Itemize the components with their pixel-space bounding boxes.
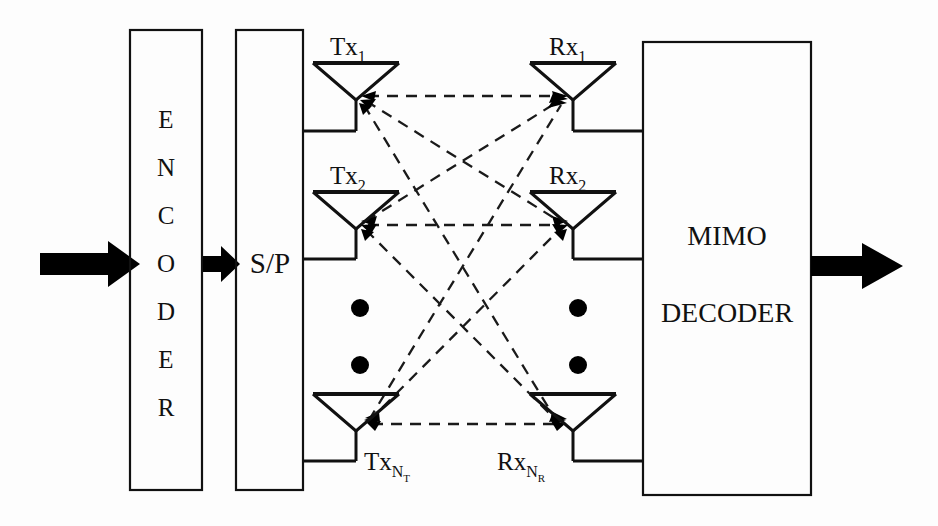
sp-label: S/P [250, 247, 290, 279]
tx1-sub: 1 [358, 48, 366, 65]
channel-link-tx1-rxnr [364, 105, 556, 420]
rx-antenna-1-label: Rx1 [549, 33, 586, 65]
tx-antenna-1 [313, 63, 399, 131]
svg-text:RxNR: RxNR [497, 448, 546, 484]
encoder-letter-5: E [158, 346, 173, 373]
encoder-block: E N C O D E R [130, 30, 202, 490]
rx-dot-2 [569, 356, 587, 374]
encoder-letter-1: N [157, 154, 175, 181]
svg-text:Tx2: Tx2 [330, 162, 366, 194]
svg-text:Rx2: Rx2 [549, 162, 586, 194]
rx-antenna-nr [530, 394, 616, 461]
rx-antenna-nr-label: RxNR [497, 448, 546, 484]
decoder-line-1: MIMO [687, 220, 766, 251]
encoder-letter-0: E [158, 106, 173, 133]
txnt-subsub: T [403, 472, 410, 484]
tx-ellipsis-dots [351, 299, 369, 374]
tx-dot-2 [351, 356, 369, 374]
tx-dot-1 [351, 299, 369, 317]
rxnr-sub: N [526, 463, 538, 480]
txnt-base: Tx [364, 448, 392, 475]
rxnr-subsub: R [538, 472, 546, 484]
input-signal-arrow [40, 241, 140, 287]
rx-ellipsis-dots [569, 299, 587, 374]
rxnr-base: Rx [497, 448, 527, 475]
tx2-sub: 2 [358, 177, 366, 194]
channel-arrowheads-tx [359, 91, 381, 431]
tx-antenna-2-label: Tx2 [330, 162, 366, 194]
mimo-decoder-block: MIMO DECODER [643, 42, 811, 495]
diagram-canvas: E N C O D E R S/P [0, 0, 938, 526]
txnt-sub: N [392, 463, 404, 480]
rx1-base: Rx [549, 33, 579, 60]
rx-antenna-2-label: Rx2 [549, 162, 586, 194]
decoder-line-2: DECODER [661, 297, 794, 328]
mimo-block-diagram: E N C O D E R S/P [0, 0, 938, 526]
encoder-letter-2: C [158, 202, 175, 229]
encoder-letter-6: R [158, 394, 175, 421]
encoder-letter-3: O [157, 250, 175, 277]
rx2-base: Rx [549, 162, 579, 189]
tx-antenna-1-label: Tx1 [330, 33, 366, 65]
channel-links [364, 96, 561, 424]
channel-arrowheads-rx [548, 91, 568, 431]
output-signal-arrow [811, 243, 903, 289]
svg-text:TxNT: TxNT [364, 448, 410, 484]
rx2-sub: 2 [578, 177, 586, 194]
encoder-to-sp-arrow [203, 246, 240, 282]
serial-to-parallel-block: S/P [236, 30, 303, 490]
svg-text:Tx1: Tx1 [330, 33, 366, 65]
rx1-sub: 1 [578, 48, 586, 65]
rx-dot-1 [569, 299, 587, 317]
encoder-letter-4: D [157, 298, 175, 325]
svg-text:Rx1: Rx1 [549, 33, 586, 65]
tx1-base: Tx [330, 33, 358, 60]
tx2-base: Tx [330, 162, 358, 189]
tx-antenna-nt-label: TxNT [364, 448, 410, 484]
